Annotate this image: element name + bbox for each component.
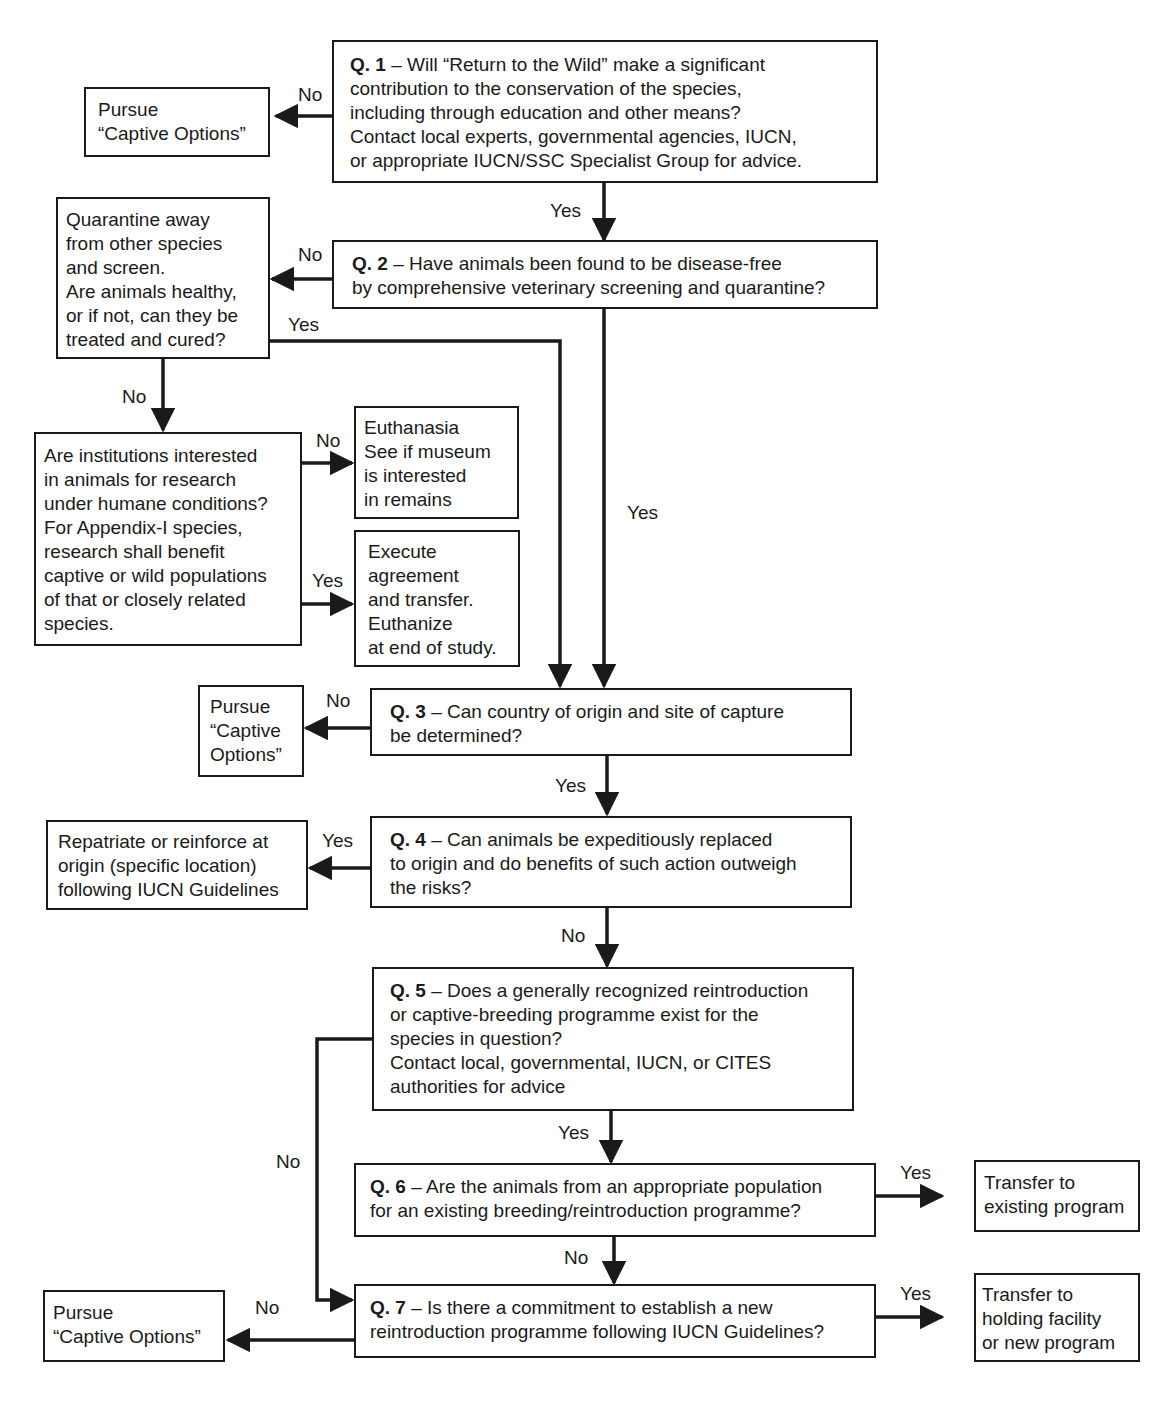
- label-q6-yes: Yes: [900, 1162, 931, 1184]
- label-q2-yes: Yes: [627, 502, 658, 524]
- research-institutions-box: Are institutions interested in animals f…: [34, 432, 302, 646]
- repatriate-box: Repatriate or reinforce at origin (speci…: [46, 820, 308, 910]
- euthanasia-text: Euthanasia See if museum is interested i…: [364, 417, 491, 510]
- question-6-box: Q. 6 – Are the animals from an appropria…: [354, 1163, 876, 1237]
- captive-options-text-3: Pursue “Captive Options”: [210, 696, 282, 765]
- question-7-box: Q. 7 – Is there a commitment to establis…: [354, 1284, 876, 1358]
- label-q4-yes: Yes: [322, 830, 353, 852]
- label-q5-yes: Yes: [558, 1122, 589, 1144]
- question-7-id: Q. 7: [370, 1297, 406, 1318]
- question-4-box: Q. 4 – Can animals be expeditiously repl…: [370, 816, 852, 908]
- question-1-box: Q. 1 – Will “Return to the Wild” make a …: [332, 40, 878, 183]
- label-quarantine-yes: Yes: [288, 314, 319, 336]
- euthanasia-box: Euthanasia See if museum is interested i…: [354, 406, 519, 519]
- label-quarantine-no: No: [122, 386, 146, 408]
- captive-options-box-7: Pursue “Captive Options”: [43, 1290, 225, 1362]
- captive-options-text-7: Pursue “Captive Options”: [53, 1302, 201, 1347]
- label-q7-no: No: [255, 1297, 279, 1319]
- execute-agreement-box: Execute agreement and transfer. Euthaniz…: [354, 530, 520, 667]
- label-q5-no: No: [276, 1151, 300, 1173]
- question-7-text: – Is there a commitment to establish a n…: [370, 1297, 824, 1342]
- label-q1-no: No: [298, 84, 322, 106]
- question-6-text: – Are the animals from an appropriate po…: [370, 1176, 822, 1221]
- quarantine-text: Quarantine away from other species and s…: [66, 209, 238, 350]
- label-q3-yes: Yes: [555, 775, 586, 797]
- label-research-no: No: [316, 430, 340, 452]
- label-q3-no: No: [326, 690, 350, 712]
- label-research-yes: Yes: [312, 570, 343, 592]
- question-1-id: Q. 1: [350, 54, 386, 75]
- label-q1-yes: Yes: [550, 200, 581, 222]
- question-2-box: Q. 2 – Have animals been found to be dis…: [332, 240, 878, 309]
- label-q2-no: No: [298, 244, 322, 266]
- question-4-text: – Can animals be expeditiously replaced …: [390, 829, 797, 898]
- transfer-existing-text: Transfer to existing program: [984, 1172, 1124, 1217]
- transfer-holding-box: Transfer to holding facility or new prog…: [974, 1273, 1140, 1362]
- captive-options-box-3: Pursue “Captive Options”: [198, 685, 304, 777]
- captive-options-text-1: Pursue “Captive Options”: [98, 99, 246, 144]
- question-3-id: Q. 3: [390, 701, 426, 722]
- question-2-id: Q. 2: [352, 253, 388, 274]
- question-6-id: Q. 6: [370, 1176, 406, 1197]
- research-institutions-text: Are institutions interested in animals f…: [44, 445, 268, 634]
- question-5-text: – Does a generally recognized reintroduc…: [390, 980, 808, 1097]
- label-q4-no: No: [561, 925, 585, 947]
- question-5-box: Q. 5 – Does a generally recognized reint…: [372, 967, 854, 1111]
- question-2-text: – Have animals been found to be disease-…: [352, 253, 825, 298]
- label-q6-no: No: [564, 1247, 588, 1269]
- question-1-text: – Will “Return to the Wild” make a signi…: [350, 54, 802, 171]
- question-5-id: Q. 5: [390, 980, 426, 1001]
- repatriate-text: Repatriate or reinforce at origin (speci…: [58, 831, 279, 900]
- transfer-existing-box: Transfer to existing program: [974, 1160, 1140, 1232]
- question-4-id: Q. 4: [390, 829, 426, 850]
- question-3-box: Q. 3 – Can country of origin and site of…: [370, 688, 852, 756]
- captive-options-box-1: Pursue “Captive Options”: [84, 87, 270, 157]
- quarantine-box: Quarantine away from other species and s…: [56, 197, 270, 359]
- execute-agreement-text: Execute agreement and transfer. Euthaniz…: [368, 541, 497, 658]
- question-3-text: – Can country of origin and site of capt…: [390, 701, 784, 746]
- label-q7-yes: Yes: [900, 1283, 931, 1305]
- transfer-holding-text: Transfer to holding facility or new prog…: [982, 1284, 1115, 1353]
